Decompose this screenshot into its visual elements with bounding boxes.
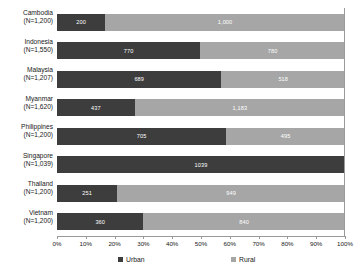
bar-row: 689518: [57, 71, 345, 88]
category-sample-size: (N=1,620): [23, 103, 53, 111]
category-sample-size: (N=1,200): [23, 17, 53, 25]
bar-row: 2001,000: [57, 14, 345, 31]
category-name: Indonesia: [23, 38, 53, 46]
category-sample-size: (N=1,550): [23, 46, 53, 54]
category-name: Thailand: [23, 180, 53, 188]
bar-segment-urban: 705: [57, 128, 226, 145]
x-axis-tick-label: 20%: [108, 240, 120, 248]
x-axis-tick-label: 60%: [224, 240, 236, 248]
x-axis-tick: [86, 236, 87, 239]
category-name: Cambodia: [23, 9, 53, 17]
x-axis-tick-label: 50%: [195, 240, 207, 248]
x-axis-tick: [115, 236, 116, 239]
bar-value-label: 780: [268, 48, 278, 54]
x-axis-tick-label: 90%: [310, 240, 322, 248]
bar-value-label: 1,183: [233, 105, 248, 111]
bar-value-label: 1039: [195, 162, 208, 168]
x-axis-tick-label: 70%: [252, 240, 264, 248]
x-axis-tick: [172, 236, 173, 239]
bar-value-label: 770: [124, 48, 134, 54]
legend-swatch-icon: [118, 257, 123, 262]
category-sample-size: (N=1,207): [23, 74, 53, 82]
x-axis-tick: [287, 236, 288, 239]
x-axis-tick-label: 10%: [80, 240, 92, 248]
category-name: Malaysia: [23, 66, 53, 74]
category-sample-size: (N=1,200): [23, 217, 53, 225]
x-axis-tick-label: 0%: [53, 240, 62, 248]
plot-right-border: [344, 8, 345, 236]
bar-value-label: 437: [91, 105, 101, 111]
category-label-indonesia: Indonesia(N=1,550): [23, 38, 53, 54]
bar-value-label: 689: [134, 76, 144, 82]
category-label-philippines: Philippines(N=1,200): [21, 123, 53, 139]
category-label-cambodia: Cambodia(N=1,200): [23, 9, 53, 25]
bar-segment-rural: 780: [200, 42, 345, 59]
bar-segment-urban: 360: [57, 213, 143, 230]
category-label-vietnam: Vietnam(N=1,200): [23, 209, 53, 225]
bar-value-label: 360: [95, 219, 105, 225]
bar-segment-urban: 251: [57, 185, 117, 202]
bar-segment-urban: 1039: [57, 156, 345, 173]
bar-row: 705495: [57, 128, 345, 145]
bar-value-label: 840: [239, 219, 249, 225]
x-axis-tick: [230, 236, 231, 239]
bar-segment-rural: 495: [226, 128, 345, 145]
category-sample-size: (N=1,039): [23, 160, 53, 168]
bar-segment-urban: 770: [57, 42, 200, 59]
legend-item-urban[interactable]: Urban: [118, 255, 145, 264]
category-name: Philippines: [21, 123, 53, 131]
bar-segment-rural: 1,183: [135, 99, 345, 116]
bar-segment-urban: 200: [57, 14, 105, 31]
bar-row: 4371,183: [57, 99, 345, 116]
x-axis-tick-label: 30%: [137, 240, 149, 248]
x-axis-tick: [143, 236, 144, 239]
x-axis-tick-label: 100%: [337, 240, 353, 248]
bar-segment-rural: 1,000: [105, 14, 345, 31]
bar-segment-rural: 518: [221, 71, 345, 88]
category-name: Singapore: [23, 152, 53, 160]
bar-segment-urban: 437: [57, 99, 135, 116]
bar-value-label: 251: [82, 190, 92, 196]
x-axis-tick: [259, 236, 260, 239]
bar-segment-urban: 689: [57, 71, 221, 88]
category-axis-labels: Cambodia(N=1,200)Indonesia(N=1,550)Malay…: [0, 8, 55, 236]
legend-item-rural[interactable]: Rural: [231, 255, 255, 264]
category-label-myanmar: Myanmar(N=1,620): [23, 95, 53, 111]
category-sample-size: (N=1,200): [21, 131, 53, 139]
legend-swatch-icon: [231, 257, 236, 262]
bar-segment-rural: 949: [117, 185, 345, 202]
bar-row: 1039: [57, 156, 345, 173]
x-axis-tick: [57, 236, 58, 239]
x-axis-tick-label: 80%: [281, 240, 293, 248]
bar-value-label: 705: [137, 133, 147, 139]
chart-legend: UrbanRural: [0, 254, 354, 268]
bar-value-label: 495: [281, 133, 291, 139]
legend-label: Urban: [126, 255, 145, 264]
bar-value-label: 200: [76, 19, 86, 25]
legend-label: Rural: [239, 255, 255, 264]
x-axis-tick: [345, 236, 346, 239]
bar-value-label: 949: [226, 190, 236, 196]
category-label-singapore: Singapore(N=1,039): [23, 152, 53, 168]
category-name: Vietnam: [23, 209, 53, 217]
category-label-malaysia: Malaysia(N=1,207): [23, 66, 53, 82]
bar-value-label: 1,000: [218, 19, 233, 25]
category-name: Myanmar: [23, 95, 53, 103]
bar-value-label: 518: [278, 76, 288, 82]
x-axis-tick-label: 40%: [166, 240, 178, 248]
category-sample-size: (N=1,200): [23, 188, 53, 196]
x-axis-tick: [316, 236, 317, 239]
x-axis-tick: [201, 236, 202, 239]
bar-segment-rural: 840: [143, 213, 345, 230]
category-label-thailand: Thailand(N=1,200): [23, 180, 53, 196]
plot-area: 2001,0007707806895184371,183705495103925…: [57, 8, 345, 236]
bar-row: 770780: [57, 42, 345, 59]
stacked-bar-chart: Cambodia(N=1,200)Indonesia(N=1,550)Malay…: [0, 0, 354, 280]
bar-row: 251949: [57, 185, 345, 202]
bar-row: 360840: [57, 213, 345, 230]
